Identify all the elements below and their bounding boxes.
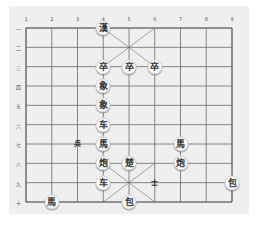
piece-advisor[interactable]: 士 [149,177,160,188]
row-label: 五 [16,102,21,109]
piece-chariot[interactable]: 车 [96,175,111,190]
column-label: 1 [24,16,27,22]
piece-chariot[interactable]: 车 [96,117,111,132]
row-label: 十 [16,199,21,206]
piece-chu[interactable]: 楚 [122,156,137,171]
piece-pawn[interactable]: 兵 [72,139,83,150]
column-label: 2 [50,16,53,22]
xiangqi-board[interactable] [0,0,259,226]
row-label: 八 [16,160,21,167]
piece-horse[interactable]: 馬 [96,137,111,152]
piece-cannon[interactable]: 炮 [173,156,188,171]
column-label: 9 [230,16,233,22]
piece-soldier[interactable]: 卒 [122,59,137,74]
piece-soldier[interactable]: 卒 [147,59,162,74]
piece-cannon[interactable]: 包 [122,195,137,210]
row-label: 一 [16,25,21,32]
column-label: 7 [179,16,182,22]
row-label: 四 [16,83,21,90]
piece-horse[interactable]: 馬 [44,195,59,210]
column-label: 5 [127,16,130,22]
row-label: 二 [16,44,21,51]
piece-soldier[interactable]: 卒 [96,59,111,74]
row-label: 六 [16,121,21,128]
column-label: 8 [205,16,208,22]
piece-horse[interactable]: 馬 [173,137,188,152]
row-label: 七 [16,141,21,148]
piece-han[interactable]: 漢 [96,21,111,36]
row-label: 三 [16,63,21,70]
column-label: 3 [76,16,79,22]
piece-cannon[interactable]: 炮 [96,156,111,171]
piece-elephant[interactable]: 象 [96,79,111,94]
row-label: 九 [16,179,21,186]
piece-elephant[interactable]: 象 [96,98,111,113]
piece-cannon[interactable]: 包 [225,175,240,190]
column-label: 6 [153,16,156,22]
